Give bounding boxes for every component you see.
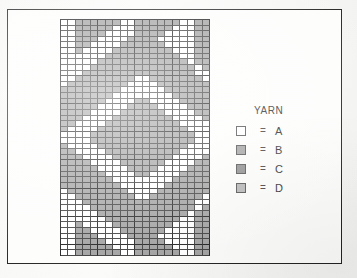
page-border-frame: YARN =A=B=C=D	[7, 9, 342, 264]
chart-cell	[195, 250, 202, 256]
chart-cell	[173, 250, 180, 256]
chart-cell	[61, 250, 68, 256]
yarn-legend: YARN =A=B=C=D	[236, 105, 331, 198]
chart-cell	[91, 250, 98, 256]
chart-cell	[83, 250, 90, 256]
legend-item-c: =C	[236, 160, 331, 177]
chart-cell	[113, 250, 120, 256]
chart-cell	[188, 250, 195, 256]
knitting-chart	[60, 19, 210, 256]
chart-cell	[76, 250, 83, 256]
legend-equals-sign: =	[257, 144, 269, 155]
yarn-swatch-d	[236, 183, 246, 193]
legend-equals-sign: =	[257, 163, 269, 174]
legend-equals-sign: =	[257, 125, 269, 136]
legend-item-b: =B	[236, 141, 331, 158]
legend-equals-sign: =	[257, 182, 269, 193]
legend-label: D	[275, 182, 283, 194]
legend-item-d: =D	[236, 179, 331, 196]
chart-cell	[68, 250, 75, 256]
chart-grid	[60, 19, 210, 256]
chart-cell	[180, 250, 187, 256]
legend-item-a: =A	[236, 122, 331, 139]
chart-cell	[203, 250, 210, 256]
chart-cell	[98, 250, 105, 256]
legend-rows: =A=B=C=D	[236, 122, 331, 196]
chart-cell	[135, 250, 142, 256]
scanned-page-background: YARN =A=B=C=D	[0, 0, 357, 278]
chart-cell	[106, 250, 113, 256]
legend-label: A	[275, 125, 282, 137]
chart-cell	[121, 250, 128, 256]
chart-cell	[165, 250, 172, 256]
chart-cell	[128, 250, 135, 256]
legend-label: C	[275, 163, 283, 175]
chart-cell	[150, 250, 157, 256]
chart-cell	[158, 250, 165, 256]
yarn-swatch-a	[236, 126, 246, 136]
legend-label: B	[275, 144, 282, 156]
chart-cell	[143, 250, 150, 256]
yarn-swatch-b	[236, 145, 246, 155]
yarn-swatch-c	[236, 164, 246, 174]
legend-title: YARN	[254, 105, 331, 116]
